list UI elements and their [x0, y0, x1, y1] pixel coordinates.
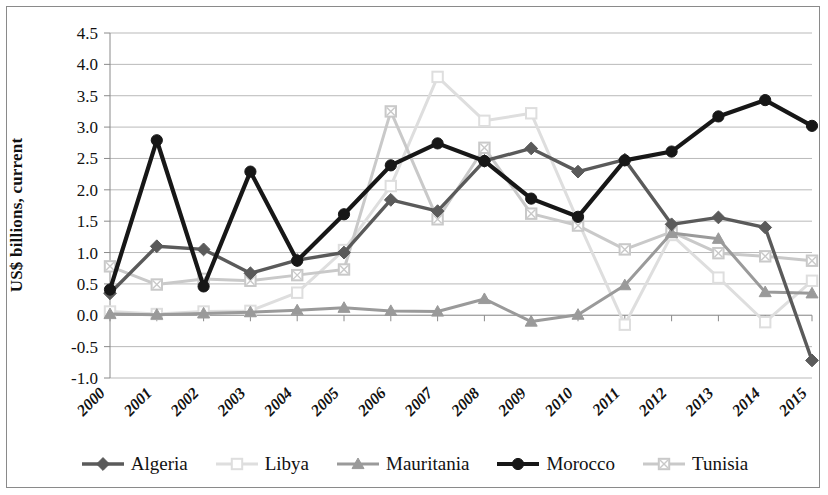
x-axis-tick: 2003 [213, 384, 248, 419]
legend-label-mauritania: Mauritania [386, 453, 469, 475]
x-axis-tick: 2009 [494, 384, 529, 419]
data-point [338, 209, 349, 220]
data-point [479, 155, 490, 166]
data-point [386, 181, 396, 191]
x-axis-tick: 2010 [541, 384, 576, 419]
series-morocco [104, 95, 817, 296]
y-axis-tick: 2.5 [77, 149, 98, 168]
data-point [713, 111, 724, 122]
x-axis-tick: 2006 [354, 384, 389, 419]
data-point [478, 293, 490, 304]
data-point [572, 211, 583, 222]
data-point [526, 193, 537, 204]
data-point [151, 135, 162, 146]
data-point [479, 143, 489, 153]
x-axis-tick: 2013 [681, 384, 716, 419]
data-point [432, 138, 443, 149]
data-point [806, 354, 819, 367]
data-point [513, 458, 524, 469]
legend-label-libya: Libya [265, 453, 309, 475]
y-axis-tick: 3.0 [77, 118, 98, 137]
data-point [659, 459, 669, 469]
data-point [231, 459, 241, 469]
legend-label-morocco: Morocco [546, 453, 615, 475]
data-point [152, 279, 162, 289]
data-point [292, 270, 302, 280]
y-axis-tick: 2.0 [77, 181, 98, 200]
x-axis-tick: 2005 [307, 384, 342, 419]
data-point [432, 72, 442, 82]
data-point [807, 276, 817, 286]
x-axis-tick: 2011 [588, 384, 623, 419]
chart-legend: Algeria Libya Mauritania Morocco Tunisia [0, 448, 828, 480]
legend-item-tunisia[interactable]: Tunisia [641, 453, 748, 475]
data-point [713, 248, 723, 258]
x-axis-tick: 2001 [120, 384, 155, 419]
data-point [104, 284, 115, 295]
x-axis-tick: 2008 [447, 384, 482, 419]
legend-item-morocco[interactable]: Morocco [495, 453, 615, 475]
data-point [572, 165, 585, 178]
legend-label-algeria: Algeria [131, 453, 188, 475]
plot-svg: 4.54.03.53.02.52.01.51.00.50.0-0.5-1.020… [0, 0, 828, 448]
data-point [619, 155, 630, 166]
chart-figure: US$ billions, current 4.54.03.53.02.52.0… [0, 0, 828, 495]
legend-marker-algeria [80, 456, 126, 472]
series-line [110, 100, 812, 289]
data-point [292, 255, 303, 266]
data-point [760, 251, 770, 261]
legend-marker-libya [214, 456, 260, 472]
legend-item-libya[interactable]: Libya [214, 453, 309, 475]
data-point [105, 261, 115, 271]
plot-area: 4.54.03.53.02.52.01.51.00.50.0-0.5-1.020… [0, 0, 828, 495]
legend-marker-tunisia [641, 456, 687, 472]
x-axis-tick: 2012 [634, 384, 669, 419]
data-point [807, 256, 817, 266]
data-point [479, 116, 489, 126]
x-axis-tick: 2002 [166, 384, 201, 419]
data-point [620, 244, 630, 254]
series-line [110, 77, 812, 325]
data-point [245, 166, 256, 177]
data-point [386, 106, 396, 116]
x-axis-tick: 2014 [728, 384, 763, 419]
y-axis-tick: 0.5 [77, 275, 98, 294]
data-point [712, 211, 725, 224]
legend-item-mauritania[interactable]: Mauritania [335, 453, 469, 475]
data-point [526, 208, 536, 218]
data-point [96, 458, 109, 471]
y-axis-tick: -0.5 [71, 338, 98, 357]
y-axis-tick: 4.5 [77, 24, 98, 43]
data-point [760, 317, 770, 327]
legend-marker-mauritania [335, 456, 381, 472]
data-point [197, 243, 210, 256]
y-axis-tick: 1.0 [77, 244, 98, 263]
legend-label-tunisia: Tunisia [692, 453, 748, 475]
data-point [526, 108, 536, 118]
y-axis-tick: 1.5 [77, 212, 98, 231]
data-point [525, 142, 538, 155]
y-axis-tick: 3.5 [77, 87, 98, 106]
data-point [198, 281, 209, 292]
data-point [759, 221, 772, 234]
x-axis-tick: 2004 [260, 384, 295, 419]
data-point [292, 287, 302, 297]
y-axis-tick: 4.0 [77, 55, 98, 74]
legend-item-algeria[interactable]: Algeria [80, 453, 188, 475]
legend-marker-morocco [495, 456, 541, 472]
x-axis-tick: 2007 [400, 383, 436, 419]
data-point [806, 120, 817, 131]
data-point [620, 319, 630, 329]
data-point [760, 95, 771, 106]
data-point [339, 264, 349, 274]
x-axis-tick: 2015 [775, 384, 810, 419]
x-axis-tick: 2000 [73, 384, 108, 419]
data-point [666, 146, 677, 157]
data-point [385, 160, 396, 171]
y-axis-tick: 0.0 [77, 306, 98, 325]
series-libya [105, 72, 817, 330]
series-algeria [104, 142, 819, 367]
data-point [713, 272, 723, 282]
